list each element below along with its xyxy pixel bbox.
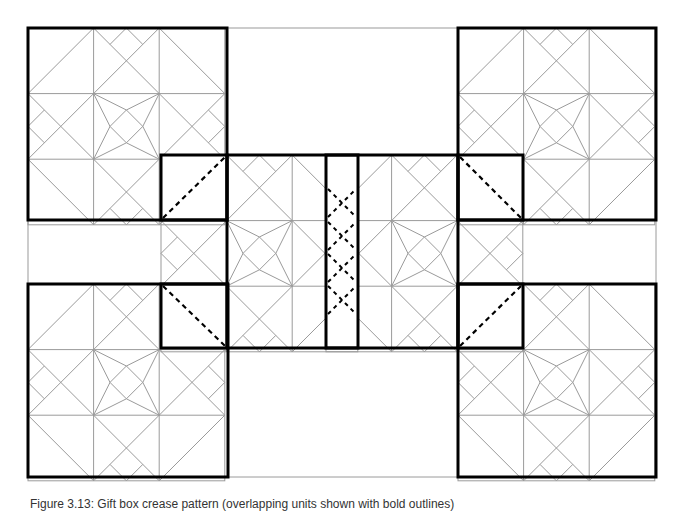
crease-line [227,221,260,237]
crease-line [276,221,292,254]
figure-caption: Figure 3.13: Gift box crease pattern (ov… [30,497,454,511]
crease-line [126,284,142,300]
crease-line [638,366,654,382]
crease-line [556,208,572,224]
crease-line [424,155,440,171]
crease-line [126,143,159,159]
crease-line [540,284,556,300]
crease-line [28,159,94,225]
crease-line [540,28,556,44]
crease-line [126,208,142,224]
crease-line [524,94,557,110]
crease-line [392,253,408,286]
crease-line [408,237,424,253]
crease-line [94,350,127,366]
crease-line [143,94,159,127]
crease-line [392,221,408,254]
crease-line [28,126,44,142]
crease-line [227,221,243,254]
crease-line [556,143,589,159]
crease-line [94,94,127,110]
crease-line [424,221,457,237]
crease-line [208,366,224,382]
crease-line [638,382,654,398]
crease-line [159,415,225,481]
crease-line [159,28,225,94]
crease-line [506,253,522,269]
crease-line [143,382,159,415]
crease-line [458,126,474,142]
crease-line [110,28,126,44]
crease-line [458,28,524,94]
crease-line [28,110,44,126]
crease-line [506,237,522,253]
crease-line [110,284,126,300]
crease-line [259,221,292,237]
crease-line [573,350,589,383]
crease-line [126,399,159,415]
crease-line [143,126,159,159]
crease-line [110,126,126,142]
crease-line [94,382,110,415]
crease-line [638,126,654,142]
crease-line [227,270,260,286]
crease-line [524,126,540,159]
crease-line [524,382,540,415]
crease-line [392,270,425,286]
crease-line [94,399,127,415]
crease-line [28,284,94,350]
crease-line [408,155,424,171]
crease-line [556,110,572,126]
crease-line [524,143,557,159]
crease-line [540,382,556,398]
crease-line [540,366,556,382]
crease-line [408,253,424,269]
crease-line [589,415,655,481]
crease-line [556,366,572,382]
crease-line [556,399,589,415]
crease-line [28,382,44,398]
crease-line [161,253,177,269]
crease-line [243,155,259,171]
crease-line [227,253,243,286]
crease-line [589,284,655,350]
crease-line [540,110,556,126]
crease-pattern-diagram [0,0,682,490]
crease-line [208,126,224,142]
crease-line [556,28,572,44]
dashed-valley-folds [162,156,522,347]
crease-line [458,366,474,382]
crease-line [243,237,259,253]
crease-line [424,253,440,269]
crease-line [259,237,275,253]
crease-line [441,221,457,254]
crease-line [441,253,457,286]
crease-line [573,382,589,415]
crease-line [259,253,275,269]
crease-line [126,350,159,366]
crease-line [126,382,142,398]
crease-line [208,382,224,398]
crease-line [259,155,275,171]
crease-line [110,366,126,382]
crease-line [424,270,457,286]
crease-line [524,94,540,127]
crease-line [243,253,259,269]
crease-line [424,237,440,253]
crease-line [556,94,589,110]
crease-line [94,350,110,383]
crease-line [556,350,589,366]
crease-line [94,126,110,159]
crease-line [540,126,556,142]
crease-line [573,126,589,159]
crease-line [276,253,292,286]
crease-line [573,94,589,127]
crease-line [392,221,425,237]
crease-line [110,382,126,398]
crease-line [110,208,126,224]
crease-line [589,159,655,225]
crease-line [556,126,572,142]
crease-line [458,415,524,481]
crease-line [110,110,126,126]
crease-line [259,270,292,286]
